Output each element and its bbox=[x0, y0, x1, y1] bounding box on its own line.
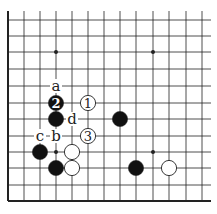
point-label-c: c bbox=[36, 127, 44, 145]
star-point bbox=[151, 50, 155, 54]
star-point bbox=[151, 150, 155, 154]
black-stone bbox=[48, 160, 63, 175]
board-grid bbox=[8, 11, 211, 201]
black-stone bbox=[128, 160, 143, 175]
star-points bbox=[54, 50, 155, 154]
black-stone bbox=[48, 111, 63, 126]
black-stone bbox=[32, 144, 47, 159]
go-board: abcd 213 bbox=[0, 0, 217, 214]
move-number-3: 3 bbox=[84, 129, 92, 144]
point-label-d: d bbox=[67, 110, 77, 128]
white-stone bbox=[64, 144, 79, 159]
white-stone bbox=[161, 160, 176, 175]
point-label-a: a bbox=[52, 77, 61, 95]
move-number-2: 2 bbox=[51, 96, 60, 111]
move-number-1: 1 bbox=[84, 96, 92, 111]
star-point bbox=[54, 150, 58, 154]
white-stone bbox=[64, 160, 79, 175]
black-stone bbox=[112, 111, 127, 126]
star-point bbox=[54, 50, 58, 54]
point-label-b: b bbox=[51, 127, 61, 145]
